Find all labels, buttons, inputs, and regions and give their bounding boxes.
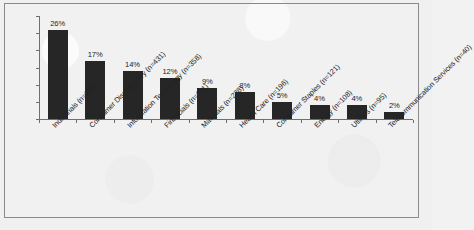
y-axis-line xyxy=(39,16,40,120)
x-axis-tick-mark xyxy=(226,120,227,123)
y-axis-tick-mark xyxy=(36,50,39,51)
y-axis-tick-mark xyxy=(36,85,39,86)
chart-frame: 30%25%20%15%10%5%0% 26%17%14%12%9%8%5%4%… xyxy=(4,3,419,218)
bar-value-label: 26% xyxy=(40,20,76,28)
x-axis-tick-mark xyxy=(376,120,377,123)
x-axis-tick-mark xyxy=(39,120,40,123)
x-axis-tick-mark xyxy=(189,120,190,123)
x-axis-tick-mark xyxy=(114,120,115,123)
bar xyxy=(48,30,68,119)
x-axis-tick-mark xyxy=(301,120,302,123)
y-axis-tick-mark xyxy=(36,102,39,103)
y-axis-tick-mark xyxy=(36,16,39,17)
y-axis-tick-mark xyxy=(36,33,39,34)
x-axis-tick-mark xyxy=(76,120,77,123)
bar-value-label: 8% xyxy=(227,82,263,90)
x-axis-tick-mark xyxy=(263,120,264,123)
x-axis-tick-mark xyxy=(338,120,339,123)
x-axis-tick-mark xyxy=(151,120,152,123)
x-axis-tick-mark xyxy=(413,120,414,123)
bar-value-label: 17% xyxy=(77,51,113,59)
y-axis-tick-mark xyxy=(36,68,39,69)
